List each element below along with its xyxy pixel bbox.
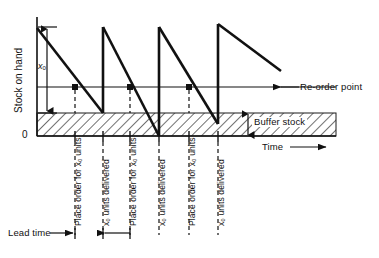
event-label-delivered-2: x₀ units delivered xyxy=(158,159,167,226)
event-label-place-order-2: Place order for x₀ units xyxy=(129,137,138,226)
order-quantity-label: x0 xyxy=(38,62,46,71)
x-axis-label: Time xyxy=(262,142,283,152)
event-label-place-order-1: Place order for x₀ units xyxy=(74,137,83,226)
event-label-delivered-3: x₀ units delivered xyxy=(217,159,226,226)
y-axis-origin-label: 0 xyxy=(22,130,28,140)
buffer-stock-label: Buffer stock xyxy=(252,117,307,127)
lead-time-callout xyxy=(50,228,130,239)
crossing-droplines xyxy=(75,90,189,113)
order-quantity-subscript: 0 xyxy=(43,65,46,71)
lead-time-label: Lead time xyxy=(8,228,51,238)
event-label-delivered-1: x₀ units delivered xyxy=(102,159,111,226)
inventory-control-diagram: Stock on hand 0 x0 Re-order point Buffer… xyxy=(0,0,379,258)
y-axis-label: Stock on hand xyxy=(14,48,24,113)
event-label-place-order-3: Place order for x₀ units xyxy=(188,137,197,226)
reorder-point-label: Re-order point xyxy=(300,82,362,92)
